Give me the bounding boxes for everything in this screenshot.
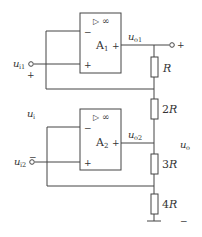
resistors: R 2 R 3 R 4 R [151,57,177,214]
op-amp-a1-noninv-sign: + [84,60,92,70]
resistor-2r-label: R [168,103,177,116]
op-amp-a2-noninv-sign: + [84,158,92,168]
op-amp-a1-out-sign: + [112,41,120,51]
resistor-2r [151,99,158,119]
op-amp-a1-triangle-icon: ▷ [93,17,100,26]
op-amp-a2-triangle-icon: ▷ [93,113,100,122]
op-amp-a1-gain: ∞ [102,16,110,26]
label-ui1-sub: i1 [19,63,25,71]
resistor-4r-label: R [168,198,177,211]
op-amp-a1-sub: 1 [104,45,108,53]
resistor-3r-coef: 3 [162,158,169,171]
op-amp-a1: ▷ ∞ − + A 1 + [80,13,121,73]
label-output-minus: − [180,216,188,226]
resistor-r-label: R [162,62,171,75]
label-uo1-sub: o1 [134,36,142,44]
label-uo-sub: o [186,144,190,152]
terminal-output-plus [170,43,175,48]
label-output-plus: + [177,40,185,50]
resistor-4r [151,194,158,214]
op-amp-a2-inv-sign: − [84,123,92,133]
label-ui-sub: i [33,113,35,121]
op-amp-a2-sub: 2 [104,142,108,150]
label-ui2-polarity: − [29,152,37,162]
label-uo2-sub: o2 [134,134,142,142]
label-ui2-sub: i2 [20,161,26,169]
resistor-4r-coef: 4 [162,198,169,211]
op-amp-a2: ▷ ∞ − + A 2 + [80,109,121,170]
resistor-r [151,57,158,77]
resistor-3r [151,154,158,174]
circuit-diagram: ▷ ∞ − + A 1 + ▷ ∞ − + A 2 + [0,0,202,237]
op-amp-a2-gain: ∞ [102,112,110,122]
op-amp-a1-inv-sign: − [84,27,92,37]
terminal-ui1 [29,62,34,67]
label-ui1-polarity: + [27,70,35,80]
resistor-3r-label: R [168,158,177,171]
resistor-2r-coef: 2 [162,103,169,116]
op-amp-a2-out-sign: + [112,138,120,148]
